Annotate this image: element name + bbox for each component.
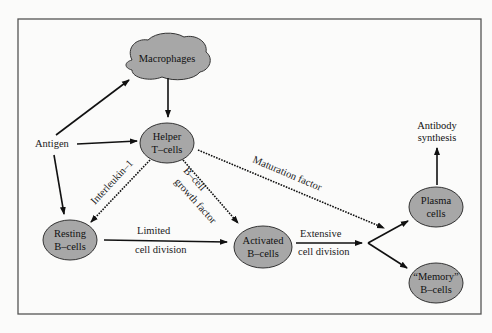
memory-b-cells-line2: B–cells	[420, 284, 452, 295]
helper-t-cells-line1: Helper	[153, 131, 182, 142]
arrow-limited-division	[104, 240, 227, 242]
resting-b-cells-node: Resting B–cells	[43, 220, 97, 260]
plasma-cells-node: Plasma cells	[409, 187, 463, 227]
helper-t-cells-node: Helper T–cells	[140, 123, 194, 163]
memory-b-cells-line1: “Memory”	[413, 271, 459, 282]
limited-label: Limited	[137, 225, 171, 236]
arrow-antigen-to-helper	[77, 141, 137, 144]
extensive-label: Extensive	[300, 228, 342, 239]
resting-b-cells-line1: Resting	[54, 228, 87, 239]
antibody-synthesis-line2: synthesis	[418, 132, 457, 143]
memory-b-cells-node: “Memory” B–cells	[409, 263, 463, 303]
resting-b-cells-line2: B–cells	[54, 241, 86, 252]
immune-response-diagram: Macrophages Antigen Helper T–cells Resti…	[0, 0, 492, 333]
limited-cell-division-label: cell division	[135, 244, 187, 255]
macrophages-node: Macrophages	[126, 33, 210, 80]
arrow-antigen-to-resting	[54, 155, 64, 214]
macrophages-label: Macrophages	[139, 53, 196, 64]
plasma-cells-line1: Plasma	[421, 195, 452, 206]
plasma-cells-line2: cells	[426, 208, 445, 219]
helper-t-cells-line2: T–cells	[152, 144, 183, 155]
arrow-to-memory	[368, 243, 407, 268]
maturation-factor-label: Maturation factor	[251, 154, 324, 193]
antigen-label: Antigen	[35, 138, 70, 149]
arrow-maturation-factor	[198, 150, 384, 228]
activated-b-cells-line1: Activated	[243, 235, 285, 246]
activated-b-cells-node: Activated B–cells	[234, 226, 292, 268]
extensive-cell-division-label: cell division	[298, 246, 350, 257]
diagram-frame	[18, 19, 481, 314]
antibody-synthesis-line1: Antibody	[417, 120, 457, 131]
arrow-antigen-to-macrophages	[56, 80, 129, 135]
activated-b-cells-line2: B–cells	[247, 248, 279, 259]
